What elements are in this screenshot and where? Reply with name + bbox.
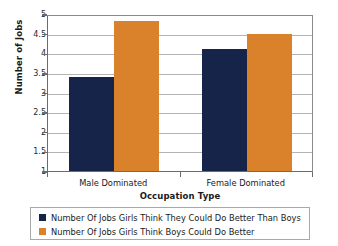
plot-frame-right xyxy=(312,15,313,173)
x-tick-mark xyxy=(312,172,313,177)
legend-swatch-icon xyxy=(39,228,46,235)
plot-area xyxy=(47,15,312,172)
bar xyxy=(114,21,159,171)
bar xyxy=(202,49,247,171)
x-tick-label: Male Dominated xyxy=(48,178,178,188)
bar xyxy=(69,77,114,171)
bar-chart: Number of Jobs 54.543.532.521.51 Male Do… xyxy=(0,0,338,246)
y-tick-label: 1 xyxy=(6,168,46,176)
legend-item: Number Of Jobs Girls Think They Could Do… xyxy=(39,211,309,224)
y-tick-label: 3.5 xyxy=(6,70,46,78)
y-tick-label: 2 xyxy=(6,129,46,137)
y-tick-label: 5 xyxy=(6,11,46,19)
y-tick-label: 2.5 xyxy=(6,109,46,117)
chart-legend: Number Of Jobs Girls Think They Could Do… xyxy=(30,207,310,240)
y-tick-label: 4 xyxy=(6,50,46,58)
legend-item: Number Of Jobs Girls Think Boys Could Do… xyxy=(39,225,309,238)
x-axis-title: Occupation Type xyxy=(47,191,313,201)
x-tick-label: Female Dominated xyxy=(181,178,311,188)
legend-item-label: Number Of Jobs Girls Think Boys Could Do… xyxy=(51,227,254,237)
y-tick-label: 1.5 xyxy=(6,148,46,156)
y-tick-label: 3 xyxy=(6,90,46,98)
legend-item-label: Number Of Jobs Girls Think They Could Do… xyxy=(51,213,301,223)
plot-frame-top xyxy=(47,15,313,16)
y-tick-label: 4.5 xyxy=(6,31,46,39)
bar xyxy=(247,34,292,171)
x-tick-mark xyxy=(180,172,181,177)
legend-swatch-icon xyxy=(39,214,46,221)
x-tick-mark xyxy=(47,172,48,177)
